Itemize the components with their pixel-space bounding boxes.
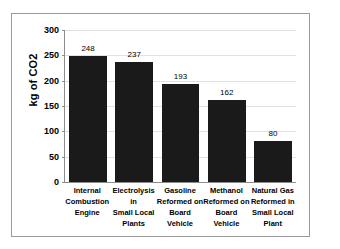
- x-axis-category-label-line: Board Vehicle: [203, 208, 249, 230]
- x-axis-category-label: Electrolysis inSmall LocalPlants: [110, 186, 156, 230]
- y-axis-tick-label: 0: [54, 178, 59, 187]
- bar-series: 24823719316280: [65, 30, 296, 182]
- x-axis-category-label-line: Electrolysis in: [110, 186, 156, 208]
- x-axis-category-label-line: Plant: [250, 219, 296, 230]
- x-axis-category-label-line: Reformed on: [157, 197, 203, 208]
- x-axis-category-label-line: Internal: [64, 186, 110, 197]
- bar-slot: 193: [157, 30, 203, 182]
- bar-slot: 237: [111, 30, 157, 182]
- x-axis-category-labels: InternalCombustionEngineElectrolysis inS…: [64, 186, 296, 238]
- y-axis-tick-mark: [62, 182, 65, 183]
- bar[interactable]: [162, 84, 200, 182]
- bar-slot: 80: [250, 30, 296, 182]
- y-axis-tick-label: 200: [44, 76, 59, 85]
- x-axis-category-label-line: Combustion: [64, 197, 110, 208]
- x-axis-category-label-line: Reformed on: [203, 197, 249, 208]
- x-axis-category-label-line: Plants: [110, 219, 156, 230]
- bar[interactable]: [69, 56, 107, 182]
- bar-value-label: 162: [204, 89, 250, 97]
- gridline: [65, 182, 296, 183]
- x-axis-category-label-line: Methanol: [203, 186, 249, 197]
- bar-value-label: 80: [250, 130, 296, 138]
- x-axis-category-label: GasolineReformed onBoard Vehicle: [157, 186, 203, 230]
- x-axis-category-label: InternalCombustionEngine: [64, 186, 110, 219]
- y-axis-tick-label: 50: [49, 152, 59, 161]
- bar-value-label: 193: [157, 73, 203, 81]
- bar[interactable]: [115, 62, 153, 182]
- x-axis-category-label-line: Board Vehicle: [157, 208, 203, 230]
- x-axis-category-label-line: Natural Gas: [250, 186, 296, 197]
- x-axis-category-label-line: Engine: [64, 208, 110, 219]
- y-axis-tick-label: 150: [44, 102, 59, 111]
- bar-value-label: 237: [111, 51, 157, 59]
- x-axis-category-label: Natural GasReformed inSmall LocalPlant: [250, 186, 296, 230]
- bar-slot: 162: [204, 30, 250, 182]
- x-axis-category-label-line: Reformed in: [250, 197, 296, 208]
- bar-value-label: 248: [65, 45, 111, 53]
- y-axis-tick-label: 100: [44, 127, 59, 136]
- bar[interactable]: [254, 141, 292, 182]
- plot-area: 050100150200250300 24823719316280: [64, 30, 296, 183]
- y-axis-tick-label: 250: [44, 51, 59, 60]
- x-axis-category-label: MethanolReformed onBoard Vehicle: [203, 186, 249, 230]
- figure: kg of CO2 050100150200250300 24823719316…: [0, 0, 340, 249]
- x-axis-category-label-line: Small Local: [250, 208, 296, 219]
- x-axis-category-label-line: Gasoline: [157, 186, 203, 197]
- chart-frame: kg of CO2 050100150200250300 24823719316…: [11, 13, 310, 237]
- y-axis-tick-label: 300: [44, 26, 59, 35]
- bar-slot: 248: [65, 30, 111, 182]
- y-axis-title: kg of CO2: [27, 25, 39, 135]
- x-axis-category-label-line: Small Local: [110, 208, 156, 219]
- bar[interactable]: [208, 100, 246, 182]
